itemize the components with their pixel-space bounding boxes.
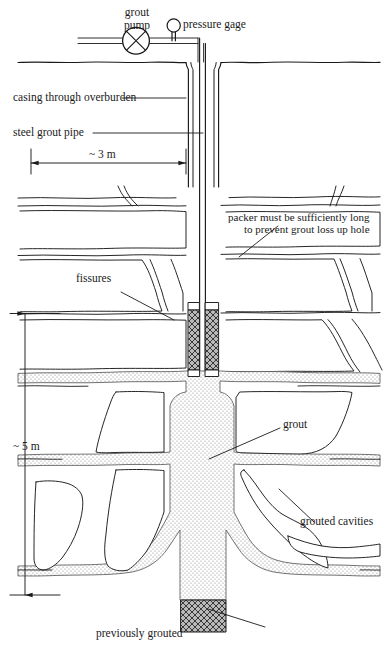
diagram-page: grout pump pressure gage casing through …	[0, 0, 387, 651]
grout-label: grout	[283, 418, 307, 431]
ground-surface-line	[18, 62, 380, 63]
grouted-cavities-region	[18, 371, 380, 600]
grouted-cavities-label: grouted cavities	[300, 515, 373, 528]
previously-grouted-label: previously grouted	[96, 627, 183, 640]
packer-note-label: packer must be sufficiently long to prev…	[228, 211, 370, 236]
fissures-label: fissures	[76, 272, 111, 285]
pressure-gage-label: pressure gage	[183, 18, 246, 31]
dimension-5m-label: ~ 5 m	[13, 440, 40, 453]
steel-grout-pipe-label: steel grout pipe	[13, 126, 84, 139]
casing-label: casing through overburden	[13, 91, 136, 104]
dimension-3m-label: ~ 3 m	[89, 148, 116, 161]
casing-through-overburden	[186, 63, 221, 187]
pressure-gage-icon	[167, 19, 180, 41]
previously-grouted-plug	[181, 600, 226, 632]
packer	[188, 303, 218, 377]
grout-pump-label: grout pump	[110, 6, 164, 32]
